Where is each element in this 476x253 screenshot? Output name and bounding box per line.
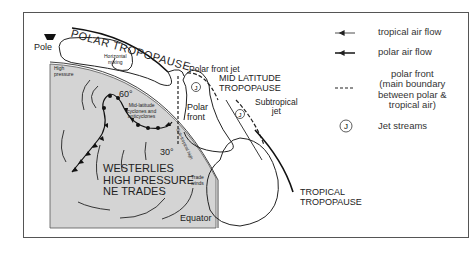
tropical-tropopause-line [255,130,293,192]
equator-label: Equator [180,214,212,224]
legend-polar-front: polar front(main boundarybetween polar &… [378,69,447,111]
westerlies-label: WESTERLIESHIGH PRESSURENE TRADES [103,163,194,198]
svg-text:J: J [195,85,198,91]
legend-symbols [335,31,355,88]
latitude-60-label: 60° [119,90,133,100]
legend-jet-streams: Jet streams [378,121,427,131]
earth-quadrant [50,64,216,228]
subtropical-jet-label: Subtropicaljet [255,98,298,117]
horizontal-mixing-label: Horizontalmixing [104,54,127,65]
pole-label: Pole [34,43,52,53]
polar-front-label: Polarfront [187,103,208,123]
hadley-cell-loop [207,138,279,226]
high-pressure-label: Highpressure [54,66,73,77]
trade-winds-label: Tradewinds [191,175,204,186]
latitude-30-label: 30° [160,148,174,158]
mid-latitude-cyclones-label: Mid-latitudecyclones andanticyclones [127,103,156,120]
tropical-tropopause-label: TROPICALTROPOPAUSE [300,188,362,208]
mid-latitude-tropopause-label: MID LATITUDETROPOPAUSE [219,74,281,94]
svg-text:J: J [239,112,242,118]
svg-text:J: J [344,122,348,131]
pole-marker-icon [44,34,56,40]
legend-tropical-air-flow: tropical air flow [378,27,441,37]
legend-polar-air-flow: polar air flow [378,47,432,57]
